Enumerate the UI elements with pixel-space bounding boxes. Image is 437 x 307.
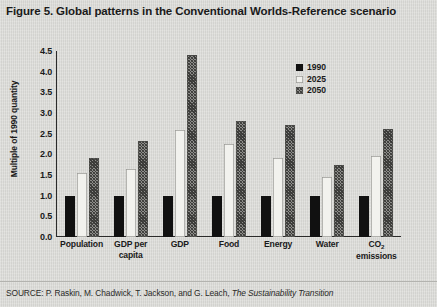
bar-1990 bbox=[65, 196, 75, 237]
y-tick-label: 1.0 bbox=[24, 191, 52, 201]
bar-2050 bbox=[89, 158, 99, 237]
legend-label: 1990 bbox=[307, 62, 326, 74]
y-tick-label: 3.0 bbox=[24, 108, 52, 118]
y-tick-label: 2.5 bbox=[24, 129, 52, 139]
bar-1990 bbox=[261, 196, 271, 237]
bar-groups bbox=[57, 51, 401, 237]
bar-2025 bbox=[273, 158, 283, 237]
bar-group bbox=[155, 51, 204, 237]
bar-group bbox=[352, 51, 401, 237]
x-axis-labels: PopulationGDP percapitaGDPFoodEnergyWate… bbox=[57, 239, 401, 261]
x-tick-label: Water bbox=[303, 239, 352, 261]
source-text: SOURCE: P. Raskin, M. Chadwick, T. Jacks… bbox=[6, 288, 232, 298]
bar-1990 bbox=[114, 196, 124, 237]
y-tick-label: 4.0 bbox=[24, 67, 52, 77]
bar-2050 bbox=[285, 125, 295, 237]
x-tick-label: CO2emissions bbox=[352, 239, 401, 261]
chart-legend: 199020252050 bbox=[296, 62, 326, 97]
bar-2025 bbox=[322, 177, 332, 237]
bar-2050 bbox=[236, 121, 246, 237]
x-tick-label: GDP percapita bbox=[106, 239, 155, 261]
bar-group bbox=[57, 51, 106, 237]
bar-2025 bbox=[224, 144, 234, 237]
bar-group bbox=[204, 51, 253, 237]
legend-swatch-icon bbox=[296, 87, 303, 94]
footer-divider bbox=[0, 281, 437, 282]
bar-1990 bbox=[163, 196, 173, 237]
bar-2025 bbox=[77, 173, 87, 237]
x-tick-label: GDP bbox=[155, 239, 204, 261]
y-tick-label: 0.0 bbox=[24, 232, 52, 242]
legend-label: 2025 bbox=[307, 74, 326, 86]
bar-2050 bbox=[187, 55, 197, 237]
bar-2025 bbox=[126, 169, 136, 237]
legend-item: 2025 bbox=[296, 74, 326, 86]
y-axis-ticks: 0.00.51.01.52.02.53.03.54.04.5 bbox=[24, 46, 52, 236]
legend-label: 2050 bbox=[307, 85, 326, 97]
y-axis-label: Multiple of 1990 quantity bbox=[9, 69, 19, 189]
bar-1990 bbox=[212, 196, 222, 237]
bar-1990 bbox=[359, 196, 369, 237]
figure-page: Figure 5. Global patterns in the Convent… bbox=[0, 0, 437, 307]
x-tick-label: Energy bbox=[254, 239, 303, 261]
y-tick-label: 1.5 bbox=[24, 170, 52, 180]
source-title: The Sustainability Transition bbox=[232, 288, 334, 298]
y-tick-label: 0.5 bbox=[24, 211, 52, 221]
y-tick-label: 3.5 bbox=[24, 87, 52, 97]
bar-2050 bbox=[383, 129, 393, 237]
bar-group bbox=[106, 51, 155, 237]
legend-item: 2050 bbox=[296, 85, 326, 97]
chart-plot-area: Multiple of 1990 quantity 0.00.51.01.52.… bbox=[0, 46, 437, 248]
y-tick-label: 4.5 bbox=[24, 46, 52, 56]
x-tick-label: Food bbox=[204, 239, 253, 261]
source-note: SOURCE: P. Raskin, M. Chadwick, T. Jacks… bbox=[6, 288, 434, 298]
y-tick-label: 2.0 bbox=[24, 149, 52, 159]
legend-item: 1990 bbox=[296, 62, 326, 74]
bar-2025 bbox=[175, 130, 185, 237]
x-tick-label: Population bbox=[57, 239, 106, 261]
legend-swatch-icon bbox=[296, 64, 303, 71]
bar-2050 bbox=[334, 165, 344, 237]
bar-2025 bbox=[371, 156, 381, 237]
figure-title: Figure 5. Global patterns in the Convent… bbox=[6, 4, 431, 18]
legend-swatch-icon bbox=[296, 76, 303, 83]
bar-2050 bbox=[138, 141, 148, 237]
bar-1990 bbox=[310, 196, 320, 237]
